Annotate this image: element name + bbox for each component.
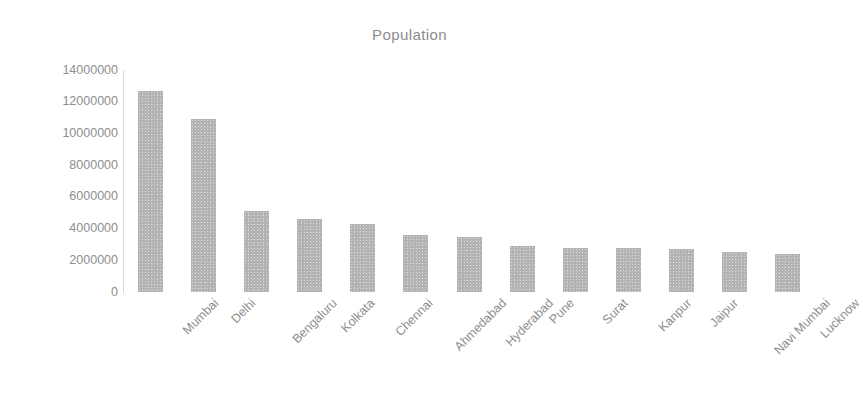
y-axis-tick-label: 2000000: [30, 254, 118, 267]
x-axis-tick-label: Ahmedabad: [452, 296, 510, 354]
bar: [616, 248, 641, 292]
x-axis-tick-label: Hyderabad: [503, 296, 556, 349]
x-axis-tick-label: Jaipur: [707, 296, 741, 330]
x-axis-tick-label: Bengaluru: [289, 296, 339, 346]
x-axis-tick-label: Mumbai: [180, 296, 221, 337]
bar: [244, 211, 269, 292]
y-axis-tick-label: 14000000: [30, 64, 118, 77]
y-axis-tick-label: 8000000: [30, 159, 118, 172]
bar: [669, 249, 694, 292]
bar: [457, 237, 482, 293]
y-axis-tick-label: 0: [30, 286, 118, 299]
bar: [775, 254, 800, 292]
x-axis-tick-label: Kanpur: [656, 296, 694, 334]
y-axis-tick-label: 4000000: [30, 222, 118, 235]
bar: [563, 248, 588, 292]
x-axis-tick-labels: MumbaiDelhiBengaluruKolkataChennaiAhmeda…: [124, 296, 814, 396]
bar: [138, 91, 163, 292]
chart-title: Population: [0, 26, 819, 43]
x-axis-tick-label: Kolkata: [338, 296, 377, 335]
bar: [297, 219, 322, 292]
y-axis-tick-labels: 1400000012000000100000008000000600000040…: [30, 60, 118, 305]
y-axis-tick-label: 10000000: [30, 127, 118, 140]
bar: [722, 252, 747, 292]
x-axis-tick-label: Delhi: [228, 296, 258, 326]
bar: [191, 119, 216, 292]
plot-area: [124, 70, 814, 292]
bar: [403, 235, 428, 292]
x-axis-tick-label: Surat: [600, 296, 631, 327]
bar: [510, 246, 535, 292]
x-axis-tick-label: Chennai: [392, 296, 435, 339]
bar: [350, 224, 375, 292]
y-axis-tick-label: 6000000: [30, 190, 118, 203]
y-axis-tick-label: 12000000: [30, 95, 118, 108]
